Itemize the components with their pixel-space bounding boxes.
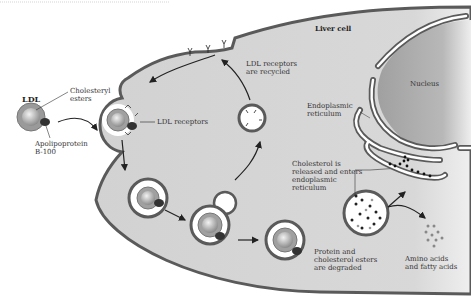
label-ldl-receptors: LDL receptors: [157, 118, 208, 126]
label-ldl: LDL: [22, 95, 40, 103]
label-nucleus: Nucleus: [410, 80, 439, 88]
label-receptors-recycled: LDL receptors are recycled: [246, 60, 297, 76]
label-cholesterol-released: Cholesterol is released and enters endop…: [292, 160, 362, 192]
arrow-binding: [58, 118, 97, 130]
pointer-cholesteryl: [36, 92, 68, 110]
label-amino-acids: Amino acids and fatty acids: [405, 255, 457, 271]
apoprotein-b100: [127, 122, 137, 130]
label-liver-cell: Liver cell: [315, 25, 351, 33]
degradation-vesicle: [344, 191, 388, 235]
ldl-core: [111, 113, 125, 127]
label-protein-degraded: Protein and cholesterol esters are degra…: [314, 248, 377, 272]
recycling-vesicle: [239, 105, 265, 131]
label-cholesteryl-esters: Cholesteryl esters: [70, 87, 111, 103]
label-apolipoprotein: Apolipoprotein B-100: [35, 140, 88, 156]
ldl-core-free: [22, 108, 40, 126]
label-endoplasmic-reticulum: Endoplasmic reticulum: [307, 102, 353, 118]
apoprotein-b100-free: [40, 118, 50, 126]
pointer-apoprotein: [46, 126, 50, 138]
